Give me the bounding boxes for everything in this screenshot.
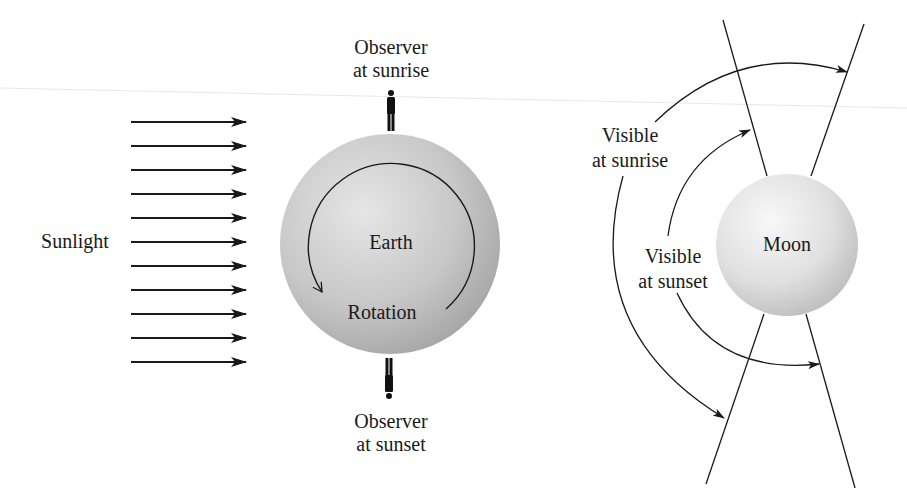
sunlight-group: Sunlight	[41, 122, 246, 362]
observer-sunset-label-line2: at sunset	[356, 433, 426, 455]
observer-sunrise-group: Observer at sunrise	[353, 36, 429, 131]
moon-visibility-diagram: Sunlight Earth Rotation Observer at sunr…	[0, 0, 907, 501]
horizon-line-upper-right	[811, 24, 864, 176]
earth-group: Earth Rotation	[280, 134, 500, 354]
moon-group: Moon Visible at sunrise Visible at sunse…	[592, 20, 864, 488]
observer-sunrise-label-line1: Observer	[354, 36, 428, 58]
horizon-line-lower-right	[806, 314, 855, 488]
visible-sunrise-arc-upper-arrow-icon	[655, 63, 847, 122]
observer-sunset-label-line1: Observer	[354, 410, 428, 432]
visible-sunset-label-line1: Visible	[645, 245, 702, 267]
visible-sunset-label-line2: at sunset	[638, 270, 708, 292]
visible-sunrise-label-line2: at sunrise	[592, 149, 668, 171]
scan-artifact-line	[0, 88, 907, 108]
sunlight-arrows	[131, 122, 246, 362]
visible-sunrise-label-line1: Visible	[602, 124, 659, 146]
earth-label: Earth	[369, 231, 412, 253]
observer-sunrise-label-line2: at sunrise	[353, 59, 429, 81]
horizon-line-lower-left	[706, 314, 764, 484]
person-inverted-icon	[385, 358, 393, 399]
horizon-line-upper-left	[723, 20, 767, 176]
moon-label: Moon	[763, 233, 811, 255]
observer-sunset-group: Observer at sunset	[354, 358, 428, 455]
sunlight-label: Sunlight	[41, 230, 109, 253]
rotation-label: Rotation	[348, 301, 417, 323]
visible-sunrise-arc-lower-arrow-icon	[613, 176, 724, 418]
